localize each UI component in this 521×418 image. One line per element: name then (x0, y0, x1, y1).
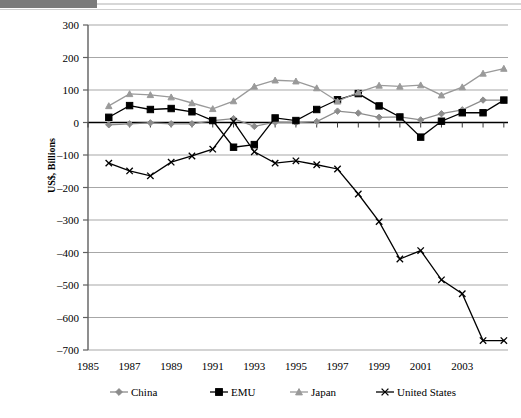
marker-diamond (147, 120, 153, 126)
series-line (109, 69, 504, 109)
marker-square (216, 389, 223, 396)
x-tick-label: 1995 (285, 360, 308, 372)
legend-label: Japan (311, 386, 337, 398)
x-tick-label: 1997 (327, 360, 350, 372)
marker-diamond (168, 121, 174, 127)
marker-diamond (314, 118, 320, 124)
series-japan (106, 65, 507, 111)
marker-square (376, 103, 382, 109)
marker-x (210, 146, 216, 152)
marker-square (126, 102, 132, 108)
series-line (109, 122, 504, 341)
marker-x (355, 191, 361, 197)
marker-diamond (334, 108, 340, 114)
legend-item-united-states[interactable]: United States (376, 386, 456, 398)
marker-square (480, 110, 486, 116)
marker-diamond (355, 110, 361, 116)
marker-x (376, 218, 382, 224)
y-tick-label: 300 (63, 19, 80, 31)
marker-diamond (480, 97, 486, 103)
y-tick-label: –100 (56, 149, 80, 161)
marker-x (459, 291, 465, 297)
marker-diamond (116, 389, 123, 396)
marker-diamond (189, 121, 195, 127)
marker-square (189, 109, 195, 115)
marker-diamond (376, 114, 382, 120)
y-tick-label: –400 (56, 247, 80, 259)
marker-triangle (501, 65, 507, 71)
marker-x (251, 149, 257, 155)
y-tick-label: –700 (56, 344, 80, 356)
marker-square (210, 117, 216, 123)
marker-square (397, 114, 403, 120)
line-chart: 3002001000–100–200–300–400–500–600–70019… (0, 0, 521, 418)
y-tick-label: –500 (56, 279, 80, 291)
x-tick-label: 2003 (451, 360, 474, 372)
marker-diamond (126, 121, 132, 127)
legend-item-japan[interactable]: Japan (290, 386, 337, 398)
marker-square (230, 144, 236, 150)
legend-label: China (131, 386, 157, 398)
marker-triangle (106, 103, 112, 109)
marker-square (501, 97, 507, 103)
y-tick-label: –300 (56, 214, 80, 226)
x-tick-label: 1999 (368, 360, 391, 372)
y-tick-label: 0 (74, 117, 80, 129)
chart-page: US$, Billions 3002001000–100–200–300–400… (0, 0, 521, 418)
marker-diamond (251, 123, 257, 129)
marker-diamond (438, 111, 444, 117)
y-tick-label: –200 (56, 182, 80, 194)
y-tick-label: 100 (63, 84, 80, 96)
legend-item-china[interactable]: China (110, 386, 157, 398)
marker-square (272, 115, 278, 121)
series-emu (106, 90, 507, 150)
marker-square (106, 114, 112, 120)
legend-label: United States (397, 386, 456, 398)
marker-square (459, 110, 465, 116)
marker-triangle (459, 84, 465, 90)
marker-x (438, 277, 444, 283)
y-tick-label: –600 (56, 312, 80, 324)
marker-square (251, 141, 257, 147)
marker-x (106, 160, 112, 166)
marker-square (168, 105, 174, 111)
x-tick-label: 1987 (119, 360, 142, 372)
x-tick-label: 1985 (77, 360, 100, 372)
marker-square (417, 134, 423, 140)
x-tick-label: 1991 (202, 360, 224, 372)
x-tick-label: 1993 (243, 360, 266, 372)
legend-item-emu[interactable]: EMU (210, 386, 256, 398)
x-tick-label: 1989 (160, 360, 183, 372)
marker-square (314, 106, 320, 112)
marker-square (147, 106, 153, 112)
legend-label: EMU (231, 386, 256, 398)
series-united-states (106, 118, 507, 343)
x-tick-label: 2001 (410, 360, 432, 372)
marker-square (438, 118, 444, 124)
marker-square (293, 117, 299, 123)
y-tick-label: 200 (63, 52, 80, 64)
marker-x (397, 256, 403, 262)
series-china (106, 97, 507, 130)
